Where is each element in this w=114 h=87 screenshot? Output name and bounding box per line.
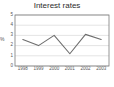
interest-rates-line-chart: Interest rates % 012345 1998199920002001…	[0, 0, 114, 87]
gridlines	[15, 15, 109, 66]
series-polyline	[23, 34, 101, 53]
plot-frame	[15, 15, 109, 66]
data-series-line	[23, 34, 101, 53]
plot-area	[0, 0, 114, 87]
axis-lines	[15, 15, 109, 66]
